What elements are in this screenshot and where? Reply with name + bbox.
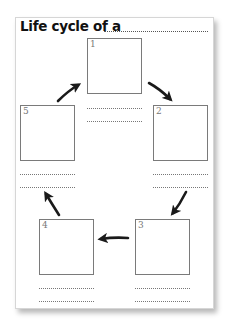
stage-2-number: 2	[156, 106, 162, 116]
stage-4-answer-line-1[interactable]	[39, 288, 94, 289]
stage-2-answer-line-2[interactable]	[153, 187, 208, 188]
stage-5-drawing-box[interactable]: 5	[20, 105, 75, 161]
stage-1-drawing-box[interactable]: 1	[87, 38, 142, 94]
stage-3-answer-line-1[interactable]	[135, 288, 190, 289]
stage-3-drawing-box[interactable]: 3	[135, 219, 190, 275]
stage-4-answer-line-2[interactable]	[39, 301, 94, 302]
stage-3-answer-line-2[interactable]	[135, 301, 190, 302]
title-answer-line[interactable]	[104, 31, 208, 32]
stage-3-number: 3	[138, 220, 144, 230]
stage-4-number: 4	[42, 220, 48, 230]
stage-1-number: 1	[90, 39, 96, 49]
stage-2-answer-line-1[interactable]	[153, 174, 208, 175]
stage-1-answer-line-1[interactable]	[87, 108, 142, 109]
stage-5-answer-line-1[interactable]	[20, 174, 75, 175]
stage-1-answer-line-2[interactable]	[87, 121, 142, 122]
stage-2-drawing-box[interactable]: 2	[153, 105, 208, 161]
stage-5-answer-line-2[interactable]	[20, 187, 75, 188]
stage-4-drawing-box[interactable]: 4	[39, 219, 94, 275]
stage-5-number: 5	[23, 106, 29, 116]
